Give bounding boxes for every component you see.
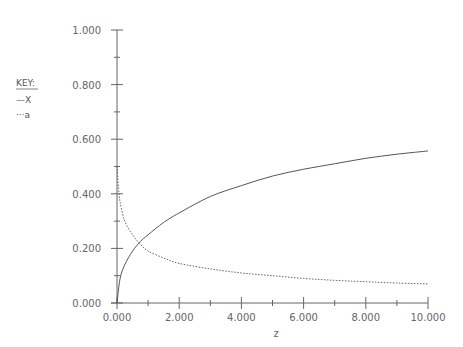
x-tick-label: 6.000 <box>289 312 318 323</box>
legend-item-x: —X <box>16 95 31 105</box>
y-tick-label: 1.000 <box>72 25 101 36</box>
legend: KEY: —X ···a <box>16 78 38 120</box>
x-tick-label: 2.000 <box>165 312 194 323</box>
series-layer <box>117 151 428 303</box>
legend-title: KEY: <box>16 78 35 88</box>
series-x-line <box>117 151 428 303</box>
y-tick-label: 0.600 <box>72 134 101 145</box>
line-chart: 0.0000.2000.4000.6000.8001.0000.0002.000… <box>0 0 463 347</box>
legend-item-a: ···a <box>16 110 30 120</box>
y-tick-label: 0.000 <box>72 298 101 309</box>
x-tick-label: 10.000 <box>411 312 446 323</box>
axes: 0.0000.2000.4000.6000.8001.0000.0002.000… <box>72 25 445 339</box>
y-tick-label: 0.800 <box>72 80 101 91</box>
x-tick-label: 8.000 <box>351 312 380 323</box>
x-axis-label: z <box>273 328 278 339</box>
y-tick-label: 0.200 <box>72 243 101 254</box>
x-tick-label: 0.000 <box>103 312 132 323</box>
x-tick-label: 4.000 <box>227 312 256 323</box>
series-a-line <box>117 167 428 284</box>
y-tick-label: 0.400 <box>72 189 101 200</box>
